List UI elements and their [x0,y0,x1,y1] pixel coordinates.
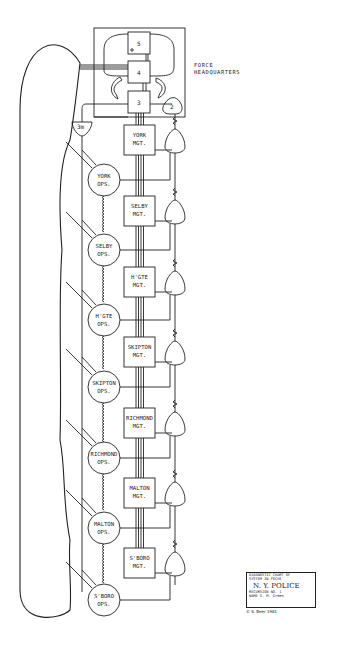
mgt-label: RICHMOND [126,415,154,421]
mgt-label: YORK [133,132,147,138]
recursion-value: 1 [279,590,281,594]
ops-label: MALTON [94,521,114,527]
name-value: S. M. Green [260,594,284,598]
card-system-name: N. Y. POLICE [247,582,315,590]
wavy-link [102,403,104,442]
name-label: NAME [249,594,258,598]
ops-label: YORK [97,173,111,179]
wavy-link [102,544,104,583]
ops-label: H'GTE [96,313,113,319]
ops-label: OPS. [97,601,110,607]
ops-circle [88,304,120,336]
mgt-label: S'BORO [129,555,150,561]
system-3-label: 3 [137,99,141,106]
card-name: NAME S. M. Green [247,594,315,598]
hq-label-line1: FORCE [194,62,213,68]
triangle-regulator [165,552,185,576]
mgt-label: SELBY [131,203,148,209]
ops-label: OPS. [97,181,110,187]
ops-label: OPS. [97,321,110,327]
ops-label: OPS. [97,529,110,535]
triangle-regulator [165,482,185,506]
ops-label: OPS. [97,459,110,465]
system-2-label: 2 [170,103,174,110]
system-4-label: 4 [137,69,141,76]
ops-circle [88,164,120,196]
ops-label: SKIPTON [92,380,116,386]
ops-label: OPS. [97,251,110,257]
diagnostic-chart-card: DIAGNOSTIC CHART OF SYSTEM IN FOCUS N. Y… [246,572,316,608]
mgt-label: SKIPTON [128,344,152,350]
mgt-label: MGT. [133,211,146,217]
mgt-label: MGT. [133,352,146,358]
mgt-label: MGT. [133,140,146,146]
ops-label: SELBY [96,243,113,249]
triangle-regulator [165,271,185,295]
ops-circle [88,512,120,544]
viable-system-diagram: 5 4 3 2 3m FORCE HEADQUARTERS YORKMGT.YO… [0,0,338,646]
wavy-link [102,336,104,369]
triangle-regulator [165,200,185,224]
ops-circle [88,584,120,616]
ops-circle [88,234,120,266]
mgt-label: MGT. [133,563,146,569]
wavy-link [102,196,104,232]
mgt-label: H'GTE [131,274,148,280]
environment-loop [20,45,80,617]
ops-label: RICHMOND [91,451,119,457]
triangle-regulator [165,341,185,365]
copyright: © S. Beer 1981 [246,609,277,614]
triangle-regulator [165,129,185,153]
system-3m-label: 3m [77,123,85,130]
mgt-label: MGT. [133,423,146,429]
ops-circle [88,371,120,403]
wavy-link [102,266,104,302]
ops-circle [88,442,120,474]
recursion-label: RECURSION NO. [249,590,277,594]
system-5-label: 5 [137,40,141,47]
mgt-label: MGT. [133,282,146,288]
ops-label: OPS. [97,388,110,394]
hq-label-line2: HEADQUARTERS [194,69,240,75]
triangle-regulator [165,412,185,436]
mgt-label: MGT. [133,493,146,499]
mgt-label: MALTON [129,485,149,491]
ops-label: S'BORO [94,593,115,599]
wavy-link [102,474,104,510]
